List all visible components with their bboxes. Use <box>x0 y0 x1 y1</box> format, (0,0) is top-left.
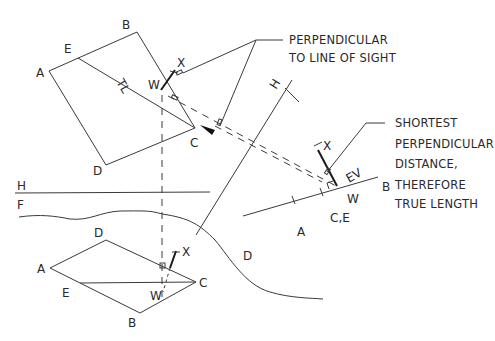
label-aux-w: W <box>347 192 359 206</box>
line-wx-front <box>170 251 176 268</box>
leader-2 <box>220 40 256 126</box>
note-shortest-line-5: TRUE LENGTH <box>394 197 478 211</box>
line-wx-hidden <box>163 268 170 292</box>
label-front-e: E <box>62 286 70 300</box>
front-view: A B C D E W X <box>37 226 207 330</box>
label-aux-ce: C,E <box>330 211 350 225</box>
label-top-x: X <box>177 56 185 70</box>
note-shortest-line-1: SHORTEST <box>395 116 458 130</box>
tick-ce <box>320 188 323 196</box>
label-aux-d: D <box>243 249 252 263</box>
fold-line-hf-line <box>15 192 210 193</box>
arrow-line-of-sight <box>200 125 215 135</box>
label-top-a: A <box>36 66 45 80</box>
note-shortest-line-4: THEREFORE <box>394 178 466 192</box>
label-aux-ev: EV <box>344 165 365 185</box>
note-shortest-line-2: PERPENDICULAR <box>395 137 494 151</box>
label-front-a: A <box>37 262 46 276</box>
note-shortest-line-3: DISTANCE, <box>395 157 458 171</box>
top-view: A B C D E W X TL <box>36 18 198 178</box>
label-front-x: X <box>182 245 190 259</box>
fold-line-h1-tick <box>285 88 299 102</box>
label-aux-b: B <box>382 180 390 194</box>
x-tick-aux <box>314 142 322 146</box>
label-front-c: C <box>199 276 207 290</box>
label-front-w: W <box>150 289 162 303</box>
tick-a <box>292 196 295 204</box>
note-perpendicular-line-1: PERPENDICULAR <box>289 33 388 47</box>
label-top-d: D <box>93 164 102 178</box>
label-h1-h: H <box>267 77 284 92</box>
label-top-tl: TL <box>113 76 133 96</box>
auxiliary-view: X W B A C,E D EV <box>243 139 390 263</box>
label-hf-f: F <box>17 198 24 212</box>
leader-shortest <box>327 123 366 172</box>
label-top-e: E <box>64 42 72 56</box>
fold-line-h1-line <box>196 80 292 235</box>
leader-1 <box>183 40 256 73</box>
line-ec-front <box>80 282 196 283</box>
label-aux-a: A <box>297 225 306 239</box>
perp-mark-dash <box>171 95 178 100</box>
label-hf-h: H <box>17 179 26 193</box>
fold-line-h1: H <box>196 77 299 235</box>
line-wx-top <box>161 70 175 90</box>
note-perpendicular: PERPENDICULAR TO LINE OF SIGHT <box>183 33 397 126</box>
plane-abcd-front <box>50 240 196 313</box>
projection-line-c-aux <box>215 126 322 182</box>
label-top-b: B <box>122 18 130 32</box>
label-front-d: D <box>94 226 103 240</box>
right-angle-mark <box>327 181 333 189</box>
label-front-b: B <box>128 316 136 330</box>
fold-line-hf: H F <box>15 179 210 212</box>
label-top-c: C <box>190 136 198 150</box>
label-top-w: W <box>148 78 160 92</box>
orthographic-drawing: A B C D E W X TL PERPENDICULAR TO LINE O… <box>0 0 495 341</box>
note-perpendicular-line-2: TO LINE OF SIGHT <box>288 51 397 65</box>
label-aux-x: X <box>323 139 331 153</box>
